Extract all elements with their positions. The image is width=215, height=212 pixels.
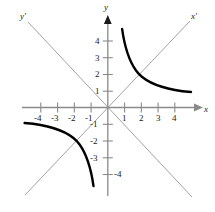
x-tick-label-2: 2 (139, 114, 144, 123)
x-tick-label-3: 3 (156, 114, 161, 123)
y-tick-label-neg-3: -3 (90, 154, 98, 163)
x-tick-label-4: 4 (172, 114, 177, 123)
axis-label-y: y (104, 3, 108, 12)
y-tick-label-1: 1 (95, 87, 100, 96)
x-tick-label-neg-3: -3 (51, 114, 59, 123)
hyperbola-rotated-axes-figure: x' y' x y -4 -3 -2 -1 1 2 3 4 4 3 2 1 -1… (0, 0, 215, 212)
hyperbola-branch-quadrant-3 (25, 123, 94, 186)
y-tick-label-neg-1: -1 (90, 120, 98, 129)
x-axis-arrowhead (194, 104, 203, 112)
axis-label-y-prime: y' (20, 12, 26, 21)
hyperbola-branch-quadrant-1 (122, 29, 191, 92)
x-tick-label-neg-4: -4 (34, 114, 42, 123)
y-tick-label-neg-2: -2 (90, 137, 98, 146)
y-tick-label-2: 2 (95, 70, 100, 79)
y-axis-arrowhead (104, 15, 112, 24)
y-tick-label-neg-4: -4 (114, 170, 122, 179)
y-tick-label-3: 3 (95, 54, 100, 63)
axis-label-x-prime: x' (191, 12, 197, 21)
x-tick-label-neg-2: -2 (68, 114, 76, 123)
axis-label-x: x (204, 105, 208, 114)
plot-canvas (0, 0, 215, 212)
rotated-axis-y-prime-line (28, 22, 192, 197)
x-tick-label-1: 1 (122, 114, 127, 123)
y-tick-label-4: 4 (95, 37, 100, 46)
